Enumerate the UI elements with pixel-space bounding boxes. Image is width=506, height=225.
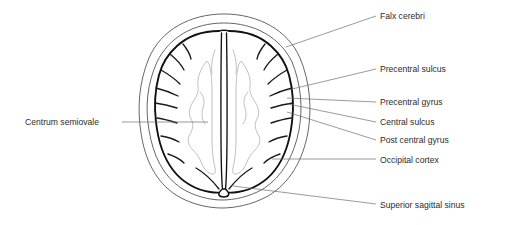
sulcus-right-4-precentral [270, 88, 292, 96]
sulcus-right-6 [271, 118, 291, 123]
label-precentral-sulcus: Precentral sulcus [380, 64, 446, 74]
label-precentral-gyrus: Precentral gyrus [380, 97, 443, 107]
right-hemisphere-cortex [229, 31, 293, 193]
falx-cerebri-line-right [226, 33, 228, 189]
inner-skull-table [147, 23, 301, 200]
gyral-trace-left [212, 50, 215, 74]
sulcus-right-7 [269, 136, 287, 142]
sulcus-left-5-central [155, 103, 177, 108]
gyral-trace-right [233, 50, 236, 74]
sulcus-right-5-central [271, 103, 293, 108]
sulcus-left-4-precentral [156, 88, 178, 96]
sulcus-left-3 [161, 70, 180, 84]
sulcus-left-8 [168, 154, 184, 163]
centrum-semiovale-left-inner [200, 92, 205, 124]
sulcus-right-1 [257, 44, 265, 59]
sulcus-left-2 [170, 54, 184, 70]
falx-frontal-junction [219, 30, 229, 31]
leader-falx-cerebri [286, 16, 376, 47]
sulcus-right-2 [264, 54, 278, 70]
label-occipital-cortex: Occipital cortex [380, 155, 439, 165]
sulcus-left-7 [161, 136, 179, 142]
brain-anatomy-figure: Falx cerebri Precentral sulcus Precentra… [0, 0, 506, 225]
label-post-central-gyrus: Post central gyrus [380, 135, 449, 145]
label-centrum-semiovale: Centrum semiovale [25, 117, 99, 127]
left-hemisphere-cortex [155, 31, 219, 193]
falx-cerebri-line-left [221, 33, 223, 189]
sulcus-right-8 [264, 154, 280, 163]
superior-sagittal-sinus-mark [219, 189, 229, 197]
leader-superior-sagittal-sinus [233, 186, 376, 204]
centrum-semiovale-right-inner [243, 92, 248, 124]
sulcus-left-1 [183, 44, 191, 59]
label-falx-cerebri: Falx cerebri [380, 11, 425, 21]
scalp-outline [139, 14, 310, 208]
leader-precentral-sulcus [288, 69, 376, 90]
label-central-sulcus: Central sulcus [380, 117, 434, 127]
leader-post-central-gyrus [287, 112, 376, 140]
sulcus-right-3 [268, 70, 287, 84]
label-superior-sagittal-sinus: Superior sagittal sinus [380, 200, 465, 210]
leader-precentral-gyrus [287, 98, 376, 102]
